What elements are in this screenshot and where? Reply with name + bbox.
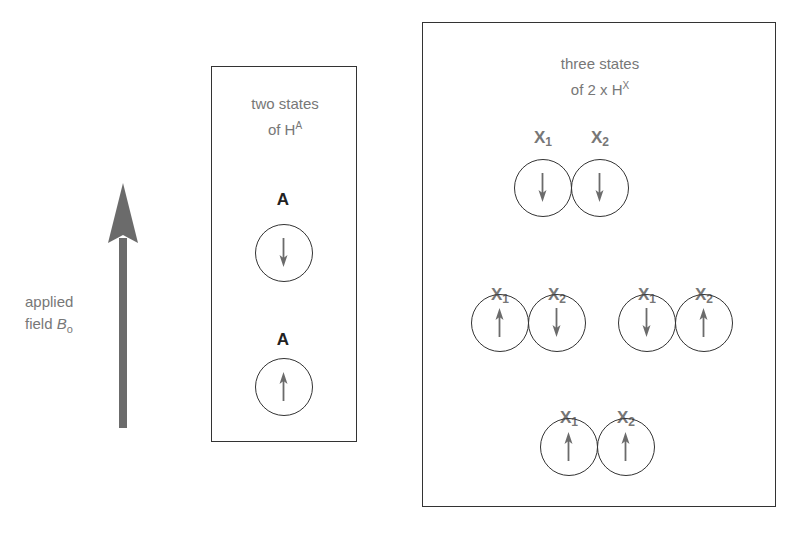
state-label-a: A — [263, 330, 303, 350]
state-label-a: A — [263, 190, 303, 210]
spin-x1-down-circle — [618, 294, 676, 352]
arrow-down-icon — [619, 295, 674, 350]
spin-x2-up-circle — [675, 294, 733, 352]
arrow-down-icon — [529, 295, 584, 350]
spin-x2-down-circle — [528, 294, 586, 352]
spin-x2-up-circle — [597, 418, 655, 476]
panel-hx-title: three states of 2 x HX — [423, 53, 777, 101]
arrow-up-icon — [598, 419, 653, 474]
spin-x2-down-circle — [571, 159, 629, 217]
arrow-up-icon — [256, 359, 311, 414]
arrow-up-icon — [676, 295, 731, 350]
label-x2: X2 — [580, 128, 620, 149]
applied-field-label: applied field Bo — [25, 291, 73, 340]
arrow-up-icon — [541, 419, 596, 474]
panel-ha-title: two states of HA — [212, 93, 358, 141]
field-label-line2: field Bo — [25, 313, 73, 340]
spin-down-circle — [255, 224, 313, 282]
arrow-up-icon — [472, 295, 527, 350]
field-symbol: B — [57, 315, 67, 332]
field-label-line1: applied — [25, 291, 73, 313]
applied-field-arrow-icon — [100, 183, 146, 428]
spin-x1-up-circle — [471, 294, 529, 352]
label-x1: X1 — [523, 128, 563, 149]
spin-x1-down-circle — [514, 159, 572, 217]
arrow-down-icon — [572, 160, 627, 215]
arrow-down-icon — [256, 225, 311, 280]
spin-x1-up-circle — [540, 418, 598, 476]
arrow-down-icon — [515, 160, 570, 215]
panel-ha-states: two states of HA A A — [211, 66, 357, 442]
panel-hx-states: three states of 2 x HX X1 X2 X1 X2 X1 X2… — [422, 22, 776, 507]
spin-up-circle — [255, 358, 313, 416]
